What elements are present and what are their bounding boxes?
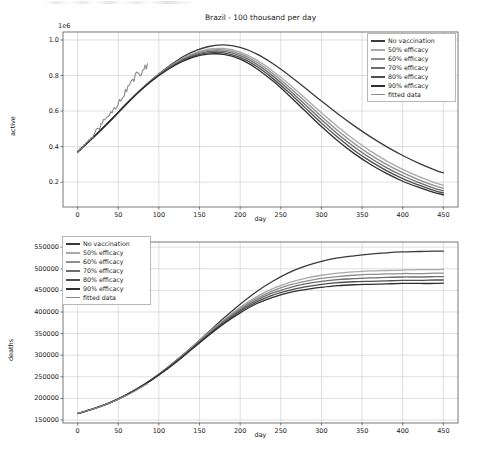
legend-line-swatch xyxy=(66,297,80,298)
legend-line-swatch xyxy=(371,49,385,51)
legend-item-label: 90% efficacy xyxy=(388,81,428,90)
legend-line-swatch xyxy=(371,76,385,78)
legend-item[interactable]: 70% efficacy xyxy=(66,266,147,275)
legend-item-label: fitted data xyxy=(83,293,116,302)
legend-item[interactable]: 90% efficacy xyxy=(66,284,147,293)
x-tick-label: 250 xyxy=(266,211,296,219)
y-tick-label: 400000 xyxy=(13,308,59,316)
y-tick-label: 550000 xyxy=(13,243,59,251)
legend-item-label: 50% efficacy xyxy=(83,248,123,257)
y-tick-label: 0.8 xyxy=(13,72,59,80)
y-tick-label: 350000 xyxy=(13,330,59,338)
legend-line-swatch xyxy=(371,58,385,60)
legend-item[interactable]: 60% efficacy xyxy=(371,54,452,63)
top-edge-artifact xyxy=(44,1,194,4)
legend-item[interactable]: 80% efficacy xyxy=(371,72,452,81)
y-tick-label: 250000 xyxy=(13,373,59,381)
legend-item[interactable]: fitted data xyxy=(66,293,147,302)
y-tick-label: 450000 xyxy=(13,286,59,294)
legend-item[interactable]: 50% efficacy xyxy=(371,45,452,54)
y-tick-label: 0.4 xyxy=(13,143,59,151)
x-tick-label: 350 xyxy=(347,211,377,219)
legend-item-label: 80% efficacy xyxy=(83,275,123,284)
y-tick-label: 200000 xyxy=(13,394,59,402)
legend-item-label: 60% efficacy xyxy=(83,257,123,266)
y-tick-label: 150000 xyxy=(13,416,59,424)
cumulative-deaths-axes: deaths day No vaccination50% efficacy60%… xyxy=(0,228,483,464)
x-tick-label: 100 xyxy=(144,211,174,219)
x-tick-label: 150 xyxy=(185,211,215,219)
legend-item[interactable]: 80% efficacy xyxy=(66,275,147,284)
x-tick-label: 150 xyxy=(185,427,215,435)
x-tick-label: 200 xyxy=(225,211,255,219)
matplotlib-figure: Brazil - 100 thousand per day 1e6 active… xyxy=(0,0,483,464)
legend-item-label: fitted data xyxy=(388,90,421,99)
x-tick-label: 50 xyxy=(103,427,133,435)
x-tick-label: 450 xyxy=(428,211,458,219)
x-tick-label: 300 xyxy=(306,211,336,219)
y-tick-label: 0.6 xyxy=(13,107,59,115)
legend-item-label: 80% efficacy xyxy=(388,72,428,81)
legend-line-swatch xyxy=(371,85,385,87)
x-tick-label: 50 xyxy=(103,211,133,219)
x-tick-label: 100 xyxy=(144,427,174,435)
y-tick-label: 0.2 xyxy=(13,178,59,186)
y-tick-label: 500000 xyxy=(13,265,59,273)
legend-item[interactable]: No vaccination xyxy=(371,36,452,45)
legend-item-label: No vaccination xyxy=(83,239,130,248)
x-tick-label: 0 xyxy=(63,427,93,435)
legend-line-swatch xyxy=(66,261,80,263)
legend-line-swatch xyxy=(66,288,80,290)
legend-line-swatch xyxy=(66,270,80,272)
legend-item[interactable]: No vaccination xyxy=(66,239,147,248)
legend-item[interactable]: 90% efficacy xyxy=(371,81,452,90)
legend-line-swatch xyxy=(66,279,80,281)
x-tick-label: 400 xyxy=(388,427,418,435)
y-tick-label: 300000 xyxy=(13,351,59,359)
active-cases-axes: Brazil - 100 thousand per day 1e6 active… xyxy=(0,10,483,225)
legend-item-label: 70% efficacy xyxy=(83,266,123,275)
x-tick-label: 450 xyxy=(428,427,458,435)
legend-item-label: 60% efficacy xyxy=(388,54,428,63)
x-tick-label: 300 xyxy=(306,427,336,435)
legend-line-swatch xyxy=(66,243,80,245)
x-tick-label: 250 xyxy=(266,427,296,435)
chart-1-legend: No vaccination50% efficacy60% efficacy70… xyxy=(367,33,456,102)
legend-item-label: 50% efficacy xyxy=(388,45,428,54)
legend-item-label: 90% efficacy xyxy=(83,284,123,293)
legend-line-swatch xyxy=(371,94,385,95)
x-tick-label: 400 xyxy=(388,211,418,219)
y-tick-label: 1.0 xyxy=(13,36,59,44)
legend-line-swatch xyxy=(371,67,385,69)
legend-item[interactable]: 70% efficacy xyxy=(371,63,452,72)
legend-item[interactable]: 60% efficacy xyxy=(66,257,147,266)
x-tick-label: 350 xyxy=(347,427,377,435)
chart-2-legend: No vaccination50% efficacy60% efficacy70… xyxy=(62,236,151,305)
x-tick-label: 0 xyxy=(63,211,93,219)
legend-item-label: No vaccination xyxy=(388,36,435,45)
legend-item[interactable]: fitted data xyxy=(371,90,452,99)
x-tick-label: 200 xyxy=(225,427,255,435)
legend-line-swatch xyxy=(371,40,385,42)
legend-line-swatch xyxy=(66,252,80,254)
legend-item[interactable]: 50% efficacy xyxy=(66,248,147,257)
legend-item-label: 70% efficacy xyxy=(388,63,428,72)
